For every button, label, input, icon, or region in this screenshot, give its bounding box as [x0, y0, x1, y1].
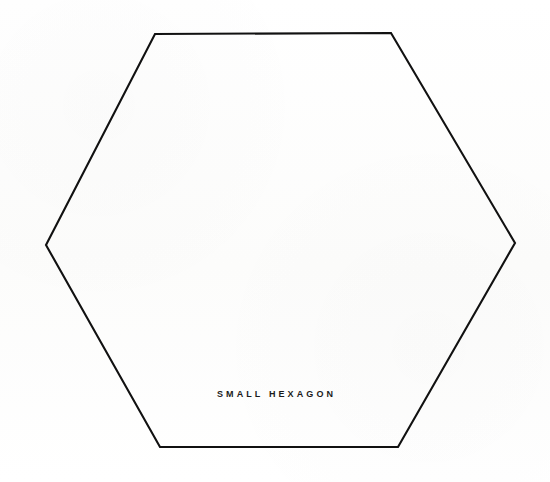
hexagon-outline-shape	[46, 33, 515, 447]
hexagon-svg	[0, 0, 550, 482]
figure-canvas: SMALL HEXAGON	[0, 0, 550, 482]
shape-caption-label: SMALL HEXAGON	[0, 388, 550, 400]
